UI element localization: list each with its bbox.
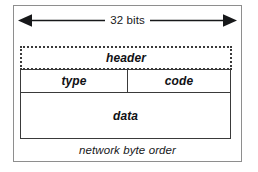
byte-order-caption: network byte order [14, 142, 241, 159]
field-data-label: data [113, 110, 138, 122]
field-data: data [20, 92, 231, 139]
bits-label-text: 32 bits [105, 14, 150, 26]
field-type: type [20, 69, 128, 93]
field-header: header [20, 46, 232, 70]
packet-format-diagram: 32 bits header type code data network by… [0, 0, 258, 172]
field-row-type-code: type code [20, 69, 231, 93]
width-annotation: 32 bits [18, 11, 237, 30]
packet-fields: header type code data [20, 46, 232, 139]
field-code: code [127, 69, 231, 93]
bits-label: 32 bits [18, 11, 237, 30]
field-type-label: type [61, 75, 86, 87]
field-code-label: code [165, 75, 193, 87]
field-header-label: header [106, 52, 146, 64]
